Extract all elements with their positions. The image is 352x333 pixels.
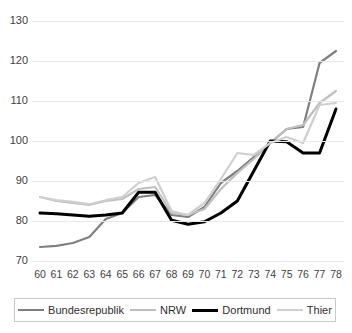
x-axis-tick-label: 76 [294, 268, 312, 280]
gridline [32, 21, 344, 22]
legend-label: Dortmund [222, 304, 270, 316]
series-line-dortmund [40, 109, 336, 224]
x-axis-tick-label: 70 [195, 268, 213, 280]
legend-item-bundesrepublik[interactable]: Bundesrepublik [18, 304, 124, 316]
gridline [32, 61, 344, 62]
x-axis-tick-label: 73 [245, 268, 263, 280]
series-line-thier [40, 103, 336, 215]
legend-label: Thier [307, 304, 332, 316]
x-axis-tick-label: 77 [311, 268, 329, 280]
x-axis-tick-label: 63 [80, 268, 98, 280]
legend-item-thier[interactable]: Thier [277, 304, 332, 316]
legend-swatch-icon [130, 309, 156, 311]
chart-legend: BundesrepublikNRWDortmundThier [14, 298, 336, 322]
plot-area [32, 21, 344, 261]
legend-label: NRW [160, 304, 186, 316]
x-axis-tick-label: 71 [212, 268, 230, 280]
y-axis-tick-label: 120 [0, 55, 28, 66]
x-axis-tick-label: 68 [163, 268, 181, 280]
legend-label: Bundesrepublik [48, 304, 124, 316]
y-axis-tick-label: 90 [0, 175, 28, 186]
x-axis-tick-label: 67 [146, 268, 164, 280]
legend-swatch-icon [18, 309, 44, 311]
x-axis: 60616263646566676869707172737475767778 [32, 268, 344, 284]
x-axis-tick-label: 74 [261, 268, 279, 280]
x-axis-tick-label: 66 [130, 268, 148, 280]
x-axis-tick-label: 60 [31, 268, 49, 280]
gridline [32, 221, 344, 222]
x-axis-tick-label: 78 [327, 268, 345, 280]
legend-swatch-icon [277, 309, 303, 311]
y-axis-tick-label: 70 [0, 255, 28, 266]
legend-item-nrw[interactable]: NRW [130, 304, 186, 316]
y-axis-tick-label: 110 [0, 95, 28, 106]
y-axis: 130120110100908070 [0, 0, 30, 282]
series-line-nrw [40, 91, 336, 215]
gridline [32, 141, 344, 142]
x-axis-tick-label: 62 [64, 268, 82, 280]
x-axis-tick-label: 75 [278, 268, 296, 280]
legend-swatch-icon [192, 309, 218, 312]
x-axis-tick-label: 69 [179, 268, 197, 280]
x-axis-tick-label: 65 [113, 268, 131, 280]
x-axis-tick-label: 64 [97, 268, 115, 280]
gridline [32, 181, 344, 182]
line-chart: 130120110100908070 606162636465666768697… [0, 0, 352, 333]
x-axis-tick-label: 72 [228, 268, 246, 280]
y-axis-tick-label: 130 [0, 15, 28, 26]
y-axis-tick-label: 100 [0, 135, 28, 146]
gridline [32, 261, 344, 262]
gridline [32, 101, 344, 102]
y-axis-tick-label: 80 [0, 215, 28, 226]
x-axis-tick-label: 61 [47, 268, 65, 280]
legend-item-dortmund[interactable]: Dortmund [192, 304, 270, 316]
series-line-bundesrepublik [40, 51, 336, 247]
